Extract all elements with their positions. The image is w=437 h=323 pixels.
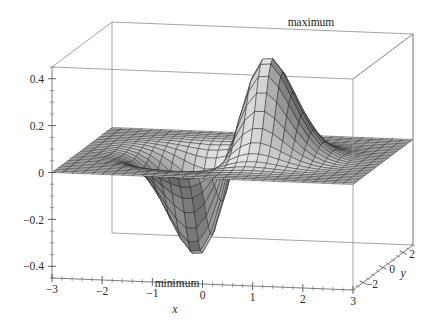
z-tick-label: −0.4: [23, 260, 44, 272]
x-tick-label: 0: [200, 289, 206, 301]
surface-plot-figure: 0.40.20−0.2−0.4−3−2−10123x−202ymaximummi…: [0, 0, 437, 323]
z-tick-label: 0: [38, 167, 44, 179]
x-tick-label: −2: [96, 285, 108, 297]
maximum-label: maximum: [288, 16, 335, 28]
z-tick-label: 0.2: [30, 120, 45, 132]
z-tick-label: 0.4: [30, 73, 45, 85]
x-axis-title: x: [171, 302, 178, 316]
x-tick-label: 2: [300, 293, 306, 305]
y-tick-label: 2: [409, 248, 415, 260]
surface-mesh: [52, 59, 413, 254]
y-tick-label: 0: [389, 263, 395, 275]
z-tick-label: −0.2: [23, 214, 44, 226]
minimum-label: minimum: [155, 277, 200, 289]
y-tick-label: −2: [366, 278, 378, 290]
x-tick-label: 1: [250, 291, 256, 303]
z-axis: [48, 67, 56, 278]
x-tick-label: 3: [350, 295, 356, 307]
y-axis-title: y: [400, 266, 407, 280]
x-tick-label: −3: [46, 283, 58, 295]
plot-canvas: 0.40.20−0.2−0.4−3−2−10123x−202ymaximummi…: [0, 0, 437, 323]
